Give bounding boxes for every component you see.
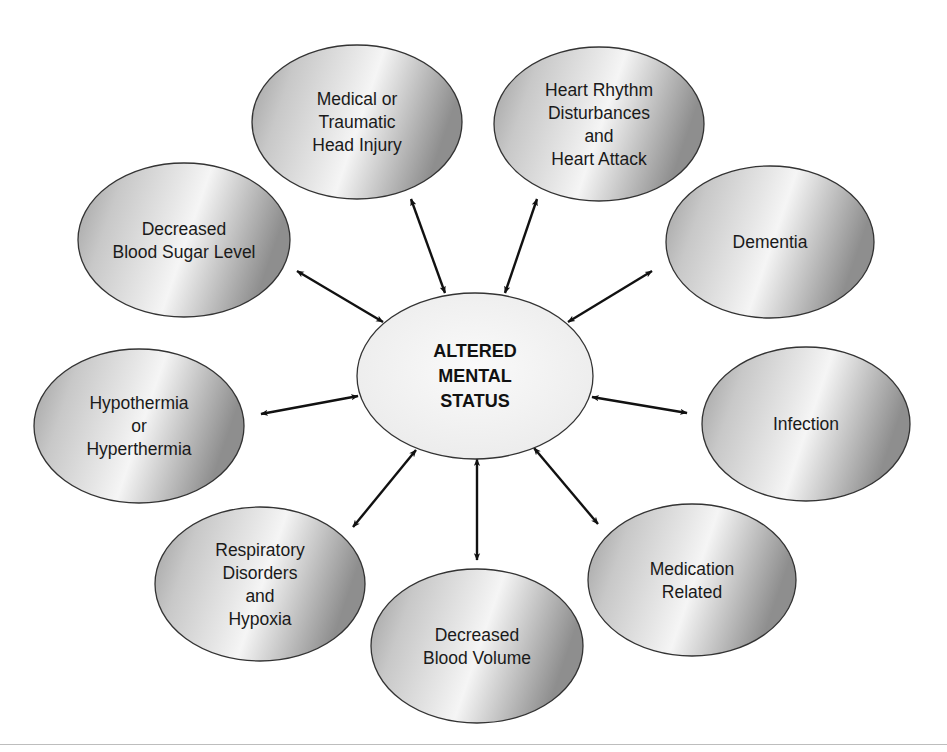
cause-node-dementia: Dementia: [666, 166, 874, 318]
node-label-line: Medication: [650, 559, 735, 579]
center-label-line: ALTERED: [433, 341, 517, 361]
cause-node-blood-sugar: DecreasedBlood Sugar Level: [78, 163, 290, 317]
cause-node-blood-volume: DecreasedBlood Volume: [371, 569, 583, 723]
node-label-line: Heart Attack: [551, 149, 647, 169]
double-arrow-icon: [261, 396, 358, 414]
node-ellipse: [588, 504, 796, 656]
node-label-line: Hyperthermia: [86, 439, 191, 459]
node-label-line: Heart Rhythm: [545, 80, 653, 100]
double-arrow-icon: [534, 448, 598, 524]
double-arrow-icon: [592, 397, 687, 413]
node-label-line: Blood Sugar Level: [112, 242, 255, 262]
node-label-line: Decreased: [142, 219, 227, 239]
node-label-line: or: [131, 416, 147, 436]
double-arrow-icon: [411, 199, 445, 293]
bottom-divider: [0, 744, 947, 745]
cause-node-temperature: HypothermiaorHyperthermia: [34, 349, 244, 503]
node-label-line: Dementia: [733, 232, 808, 252]
node-ellipse: [155, 507, 365, 661]
double-arrow-icon: [505, 199, 537, 293]
node-ellipse: [78, 163, 290, 317]
cause-node-medication: MedicationRelated: [588, 504, 796, 656]
cause-node-respiratory: RespiratoryDisordersandHypoxia: [155, 507, 365, 661]
node-label-line: Infection: [773, 414, 839, 434]
double-arrow-icon: [353, 450, 416, 527]
node-label-line: Decreased: [435, 625, 520, 645]
double-arrow-icon: [297, 271, 383, 322]
node-label-line: and: [584, 126, 613, 146]
node-label-line: Medical or: [317, 89, 398, 109]
node-label-line: Respiratory: [215, 540, 305, 560]
cause-node-head-injury: Medical orTraumaticHead Injury: [252, 45, 462, 199]
node-label-line: and: [245, 586, 274, 606]
node-label-line: Head Injury: [312, 135, 402, 155]
cause-node-heart: Heart RhythmDisturbancesandHeart Attack: [494, 47, 704, 201]
node-label-line: Hypothermia: [89, 393, 188, 413]
double-arrow-icon: [568, 271, 652, 322]
center-label-line: MENTAL: [438, 366, 512, 386]
node-label-line: Disturbances: [548, 103, 650, 123]
center-label-line: STATUS: [440, 391, 509, 411]
node-label-line: Disorders: [223, 563, 298, 583]
node-label-line: Blood Volume: [423, 648, 531, 668]
node-label-line: Related: [662, 582, 722, 602]
center-node: ALTEREDMENTALSTATUS: [357, 293, 593, 459]
node-ellipse: [494, 47, 704, 201]
cause-node-infection: Infection: [702, 347, 910, 501]
altered-mental-status-diagram: Medical orTraumaticHead InjuryHeart Rhyt…: [0, 0, 947, 752]
node-ellipse: [371, 569, 583, 723]
node-label-line: Traumatic: [318, 112, 395, 132]
node-label-line: Hypoxia: [228, 609, 291, 629]
